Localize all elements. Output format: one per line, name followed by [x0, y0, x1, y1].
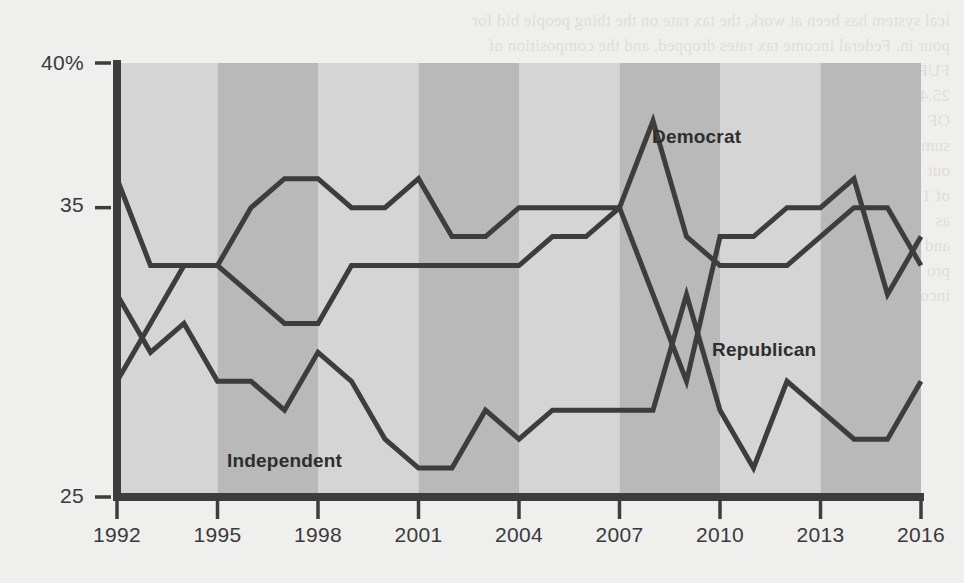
- y-tick-label-40: 40%: [14, 51, 84, 75]
- y-tick-label-35: 35: [14, 193, 84, 217]
- year-band: [117, 63, 218, 497]
- year-band: [318, 63, 419, 497]
- year-band: [821, 63, 922, 497]
- x-tick-label-2004: 2004: [479, 523, 559, 547]
- chart-plot-area: [0, 0, 964, 583]
- x-tick-label-1992: 1992: [77, 523, 157, 547]
- y-tick-label-25: 25: [14, 484, 84, 508]
- year-band: [519, 63, 620, 497]
- x-tick-label-2016: 2016: [881, 523, 961, 547]
- party-identification-line-chart: 40% 35 25 199219951998200120042007201020…: [0, 0, 964, 583]
- series-label-republican: Republican: [712, 339, 816, 361]
- x-tick-label-2013: 2013: [781, 523, 861, 547]
- year-band: [419, 63, 520, 497]
- x-tick-label-2007: 2007: [580, 523, 660, 547]
- x-tick-label-2010: 2010: [680, 523, 760, 547]
- series-label-democrat: Democrat: [652, 126, 741, 148]
- x-tick-label-1998: 1998: [278, 523, 358, 547]
- x-tick-label-1995: 1995: [178, 523, 258, 547]
- x-tick-label-2001: 2001: [379, 523, 459, 547]
- series-label-independent: Independent: [227, 450, 342, 472]
